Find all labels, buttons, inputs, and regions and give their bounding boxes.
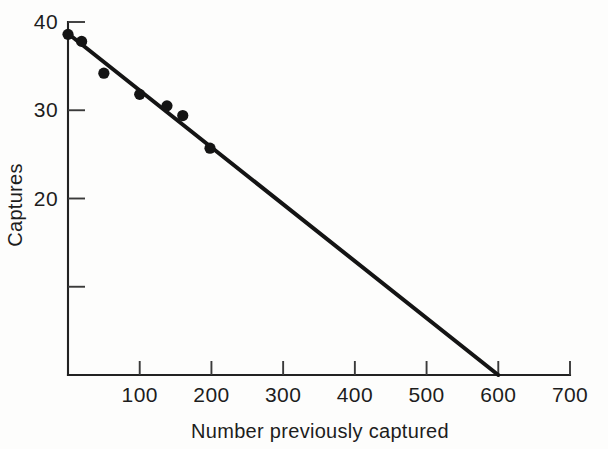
data-point bbox=[76, 36, 87, 47]
y-tick-label: 20 bbox=[34, 187, 58, 210]
x-tick-label: 500 bbox=[408, 383, 444, 406]
data-point bbox=[62, 29, 73, 40]
regression-line-segment bbox=[68, 33, 498, 375]
x-axis-title: Number previously captured bbox=[191, 420, 449, 442]
tick-labels-group: 203040100200300400500600700 bbox=[34, 10, 588, 406]
x-tick-label: 700 bbox=[552, 383, 588, 406]
data-point bbox=[204, 143, 215, 154]
x-tick-label: 200 bbox=[193, 383, 229, 406]
regression-line bbox=[68, 33, 498, 375]
data-point bbox=[161, 100, 172, 111]
data-point bbox=[177, 110, 188, 121]
tick-marks-group bbox=[68, 22, 570, 375]
x-tick-label: 400 bbox=[337, 383, 373, 406]
data-point bbox=[134, 89, 145, 100]
y-tick-label: 40 bbox=[34, 10, 58, 33]
data-point bbox=[98, 68, 109, 79]
x-tick-label: 600 bbox=[480, 383, 516, 406]
y-tick-label: 30 bbox=[34, 98, 58, 121]
y-axis-title: Captures bbox=[4, 163, 26, 247]
axes-group bbox=[68, 22, 570, 375]
x-tick-label: 300 bbox=[265, 383, 301, 406]
x-tick-label: 100 bbox=[122, 383, 158, 406]
chart-figure: 203040100200300400500600700 Number previ… bbox=[0, 0, 608, 449]
scatter-plot-svg: 203040100200300400500600700 Number previ… bbox=[0, 0, 608, 449]
